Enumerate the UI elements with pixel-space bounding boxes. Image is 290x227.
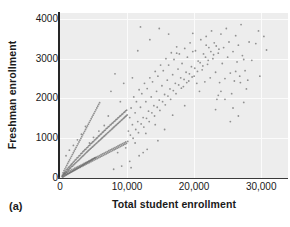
plot-area <box>60 13 288 178</box>
y-tick-label: 2000 <box>24 93 58 103</box>
panel-caption: (a) <box>9 200 22 212</box>
y-tick-label: 4000 <box>24 14 58 24</box>
scatter-plot-figure: Freshman enrollment 01000200030004000 01… <box>0 0 290 227</box>
x-axis-tick-labels: 010,00020,00030,000 <box>0 181 290 195</box>
y-axis-title: Freshman enrollment <box>2 12 22 178</box>
x-tick-label: 0 <box>57 181 63 192</box>
y-tick-label: 3000 <box>24 54 58 64</box>
x-tick-label: 30,000 <box>246 181 277 192</box>
x-tick-label: 20,000 <box>179 181 210 192</box>
y-tick-label: 1000 <box>24 133 58 143</box>
x-tick-label: 10,000 <box>112 181 143 192</box>
y-axis-title-text: Freshman enrollment <box>6 41 18 150</box>
scatter-points <box>60 13 288 178</box>
x-axis-title: Total student enrollment <box>60 198 288 210</box>
